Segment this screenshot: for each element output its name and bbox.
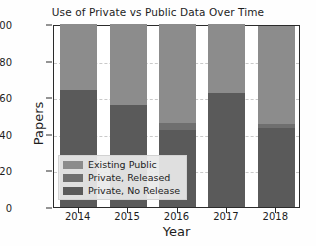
y-axis-label: Papers bbox=[31, 64, 46, 184]
bar-2017 bbox=[208, 24, 245, 207]
y-tick-mark bbox=[46, 208, 52, 209]
y-axis-tick-100: 100 bbox=[0, 20, 12, 31]
y-axis-tick-40: 40 bbox=[0, 129, 12, 140]
legend-item: Private, No Release bbox=[63, 185, 180, 196]
bar-segment bbox=[208, 24, 245, 93]
bar-segment bbox=[159, 123, 196, 130]
x-tick-mark bbox=[78, 208, 79, 213]
chart-legend: Existing PublicPrivate, ReleasedPrivate,… bbox=[58, 155, 187, 200]
y-axis-tick-20: 20 bbox=[0, 166, 12, 177]
legend-item: Private, Released bbox=[63, 172, 180, 183]
y-axis-tick-60: 60 bbox=[0, 93, 12, 104]
bar-2018 bbox=[258, 26, 295, 207]
legend-swatch-icon bbox=[63, 161, 83, 169]
bar-segment bbox=[60, 24, 97, 90]
x-tick-mark bbox=[127, 208, 128, 213]
y-axis-tick-80: 80 bbox=[0, 56, 12, 67]
bar-segment bbox=[159, 24, 196, 123]
bar-segment bbox=[208, 93, 245, 207]
bar-segment bbox=[110, 24, 147, 105]
y-axis-tick-0: 0 bbox=[6, 203, 12, 214]
legend-swatch-icon bbox=[63, 174, 83, 182]
x-tick-mark bbox=[226, 208, 227, 213]
legend-label: Existing Public bbox=[88, 159, 157, 170]
x-tick-mark bbox=[275, 208, 276, 213]
y-tick-mark bbox=[46, 25, 52, 26]
y-tick-mark bbox=[46, 98, 52, 99]
x-axis-label: Year bbox=[53, 224, 300, 239]
y-tick-mark bbox=[46, 134, 52, 135]
x-tick-mark bbox=[177, 208, 178, 213]
chart-figure: Use of Private vs Public Data Over Time … bbox=[0, 0, 316, 246]
legend-label: Private, No Release bbox=[88, 185, 180, 196]
y-tick-mark bbox=[46, 171, 52, 172]
legend-swatch-icon bbox=[63, 187, 83, 195]
legend-item: Existing Public bbox=[63, 159, 180, 170]
bar-segment bbox=[258, 128, 295, 207]
bar-segment bbox=[258, 26, 295, 124]
chart-title: Use of Private vs Public Data Over Time bbox=[0, 6, 316, 18]
y-tick-mark bbox=[46, 61, 52, 62]
legend-label: Private, Released bbox=[88, 172, 170, 183]
